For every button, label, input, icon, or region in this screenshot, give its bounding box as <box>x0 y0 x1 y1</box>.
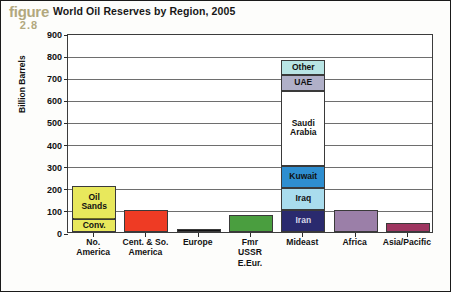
x-axis-tick-label: Africa <box>328 237 380 247</box>
bar-segment-label: UAE <box>294 78 312 87</box>
bar-segment[interactable]: Oil Sands <box>72 186 116 219</box>
gridline <box>68 79 432 80</box>
x-axis-tick-label: No. America <box>67 237 119 258</box>
bar-segment[interactable] <box>386 223 430 232</box>
y-axis-tick-label: 500 <box>47 118 62 128</box>
y-axis-tick-label: 200 <box>47 185 62 195</box>
y-axis-tick-label: 800 <box>47 52 62 62</box>
figure-word: figure <box>7 4 51 19</box>
bar-segment[interactable]: Conv. <box>72 219 116 232</box>
bar-segment[interactable]: Iran <box>281 210 325 232</box>
bar-segment[interactable] <box>334 210 378 232</box>
bar-column[interactable]: Conv.Oil Sands <box>72 186 116 232</box>
bar-column[interactable]: IranIraqKuwaitSaudi ArabiaUAEOther <box>281 60 325 232</box>
bar-segment[interactable] <box>124 210 168 232</box>
y-axis-tick-mark <box>64 35 68 36</box>
y-axis-tick-mark <box>64 123 68 124</box>
bar-column[interactable] <box>177 229 221 232</box>
y-axis-title: Billion Barrels <box>17 99 27 113</box>
chart-title: World Oil Reserves by Region, 2005 <box>53 5 235 17</box>
y-axis-tick-label: 400 <box>47 141 62 151</box>
y-axis-tick-label: 900 <box>47 30 62 40</box>
figure-panel: figure 2.8 World Oil Reserves by Region,… <box>0 0 451 292</box>
bar-segment-label: Oil Sands <box>81 193 107 211</box>
bar-column[interactable] <box>334 210 378 232</box>
y-axis-tick-label: 100 <box>47 207 62 217</box>
figure-number: 2.8 <box>7 20 51 31</box>
gridline <box>68 101 432 102</box>
gridline <box>68 189 432 190</box>
bar-column[interactable] <box>124 210 168 232</box>
y-axis-tick-mark <box>64 101 68 102</box>
bar-segment[interactable] <box>177 229 221 232</box>
bar-segment[interactable]: UAE <box>281 75 325 90</box>
gridline <box>68 167 432 168</box>
y-axis-tick-mark <box>64 57 68 58</box>
y-axis-tick-mark <box>64 167 68 168</box>
plot-area: 0100200300400500600700800900Conv.Oil San… <box>67 34 433 233</box>
y-axis-tick-mark <box>64 211 68 212</box>
y-axis-tick-label: 600 <box>47 96 62 106</box>
y-axis-tick-mark <box>64 79 68 80</box>
y-axis-tick-mark <box>64 234 68 235</box>
gridline <box>68 57 432 58</box>
bar-segment-label: Iran <box>295 216 311 225</box>
bar-column[interactable] <box>229 215 273 232</box>
bar-segment-label: Saudi Arabia <box>290 119 316 137</box>
bar-segment[interactable]: Iraq <box>281 188 325 210</box>
bar-segment-label: Kuwait <box>289 172 317 181</box>
x-axis-tick-label: Fmr USSR E.Eur. <box>224 237 276 268</box>
x-axis-tick-label: Mideast <box>276 237 328 247</box>
segment-divider <box>74 218 114 219</box>
bar-segment[interactable]: Saudi Arabia <box>281 91 325 166</box>
bar-segment-label: Conv. <box>83 221 106 230</box>
y-axis-tick-label: 300 <box>47 163 62 173</box>
figure-badge: figure 2.8 <box>7 4 51 31</box>
x-axis-tick-label: Europe <box>172 237 224 247</box>
y-axis-tick-label: 700 <box>47 74 62 84</box>
x-axis-tick-label: Cent. & So. America <box>119 237 171 258</box>
x-axis-tick-label: Asia/Pacific <box>381 237 433 247</box>
bar-segment[interactable]: Kuwait <box>281 166 325 188</box>
gridline <box>68 145 432 146</box>
y-axis-tick-mark <box>64 189 68 190</box>
y-axis-tick-mark <box>64 145 68 146</box>
bar-column[interactable] <box>386 223 430 232</box>
bar-segment-label: Other <box>292 63 315 72</box>
bar-segment[interactable] <box>229 215 273 232</box>
bar-segment[interactable]: Other <box>281 60 325 75</box>
bar-segment-label: Iraq <box>295 194 311 203</box>
y-axis-tick-label: 0 <box>57 229 62 239</box>
gridline <box>68 123 432 124</box>
